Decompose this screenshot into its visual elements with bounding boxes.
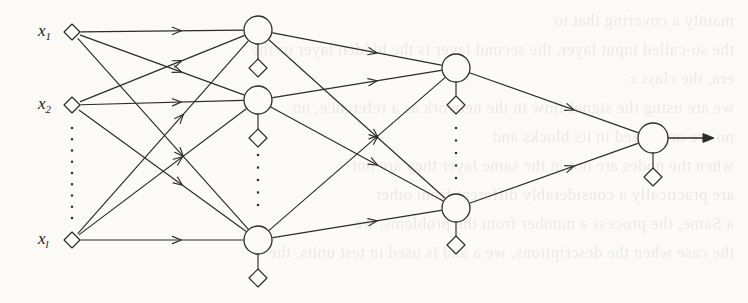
input-label-x1: x1 [38,21,51,42]
neural-network-figure: mainly a covering that to the so-called … [0,0,748,303]
output-arrowhead [703,134,714,143]
input-label-subscript: l [46,238,49,250]
arrowhead-h1-2-to-h2-2 [368,158,378,165]
edge-h1-3-to-h2-1 [269,78,444,230]
neuron-h1-3 [244,226,272,254]
first-hidden-layer-ellipsis-dot [257,191,259,193]
input-ellipsis-dot [71,161,73,163]
second-hidden-layer-ellipsis-dot [455,139,457,141]
input-ellipsis-dot [71,138,73,140]
input-ellipsis-dot [71,149,73,151]
second-hidden-layer-ellipsis-dot [455,152,457,154]
input-label-base: x [38,21,46,40]
neuron-h1-2 [244,86,272,114]
first-hidden-layer-ellipsis-dot [257,166,259,168]
input-label-subscript: 1 [46,30,52,42]
input-label-base: x [38,229,46,248]
second-hidden-layer-ellipsis-dot [455,177,457,179]
edge-h1-2-to-h2-1 [273,70,441,97]
input-ellipsis-dot [71,206,73,208]
edge-xl-to-h1-1 [78,41,248,233]
bias-diamond-out-1 [644,168,662,186]
input-node-x1 [64,24,80,40]
first-hidden-layer-ellipsis-dot [257,179,259,181]
neuron-out-1 [638,123,668,153]
bias-diamond-h1-3 [249,269,267,287]
edge-h1-1-to-h2-2 [269,40,445,198]
input-ellipsis-dot [71,194,73,196]
input-ellipsis-dot [71,127,73,129]
neuron-h2-1 [442,54,470,82]
input-ellipsis-dot [71,183,73,185]
first-hidden-layer-ellipsis-dot [257,204,259,206]
edge-x1-to-h1-3 [78,39,248,229]
input-label-x2: x2 [38,94,51,115]
second-hidden-layer-ellipsis-dot [455,164,457,166]
network-graph-canvas [0,0,748,303]
edge-h2-2-to-out-1 [470,143,638,203]
input-node-x2 [64,97,80,113]
edge-x2-to-h1-2 [81,100,243,104]
input-ellipsis-dot [71,217,73,219]
edge-x1-to-h1-1 [81,30,243,32]
edges-group [78,27,638,243]
second-hidden-layer-ellipsis-dot [455,127,457,129]
neuron-h2-2 [442,194,470,222]
edge-h1-3-to-h2-2 [273,210,441,237]
bias-diamond-h1-2 [249,129,267,147]
input-label-base: x [38,94,46,113]
input-label-subscript: 2 [46,103,52,115]
input-label-xl: xl [38,229,49,250]
neuron-h1-1 [244,16,272,44]
edge-x1-to-h1-2 [80,35,243,95]
edge-h1-1-to-h2-1 [273,33,442,65]
bias-diamond-h2-1 [447,96,465,114]
edge-h2-1-to-out-1 [470,73,638,133]
first-hidden-layer-ellipsis-dot [257,154,259,156]
bias-diamond-h1-1 [249,59,267,77]
bias-diamond-h2-2 [447,236,465,254]
input-node-xl [64,232,80,248]
input-ellipsis-dot [71,172,73,174]
